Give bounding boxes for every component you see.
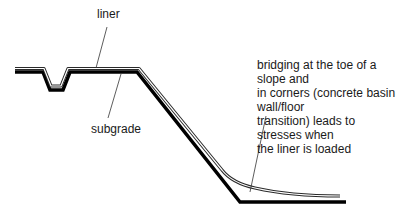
subgrade-label: subgrade — [91, 122, 141, 136]
annotation-line-3: transition) leads to stresses when — [257, 114, 402, 142]
subgrade-leader — [108, 74, 121, 118]
liner-leader — [96, 27, 107, 68]
annotation-line-1: bridging at the toe of a slope and — [257, 58, 402, 86]
liner-label: liner — [97, 7, 120, 21]
annotation-line-4: the liner is loaded — [257, 142, 402, 156]
annotation-line-2: in corners (concrete basin wall/floor — [257, 86, 402, 114]
bridging-annotation: bridging at the toe of a slope and in co… — [257, 58, 402, 156]
